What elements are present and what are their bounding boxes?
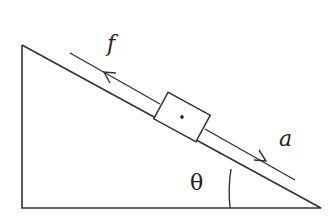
block xyxy=(154,92,211,141)
incline-diagram: f a θ xyxy=(0,0,336,219)
angle-arc xyxy=(229,169,231,208)
acceleration-label: a xyxy=(279,126,292,151)
friction-label: f xyxy=(105,31,119,56)
acceleration-arrow-head xyxy=(254,150,266,161)
angle-label: θ xyxy=(190,170,203,195)
